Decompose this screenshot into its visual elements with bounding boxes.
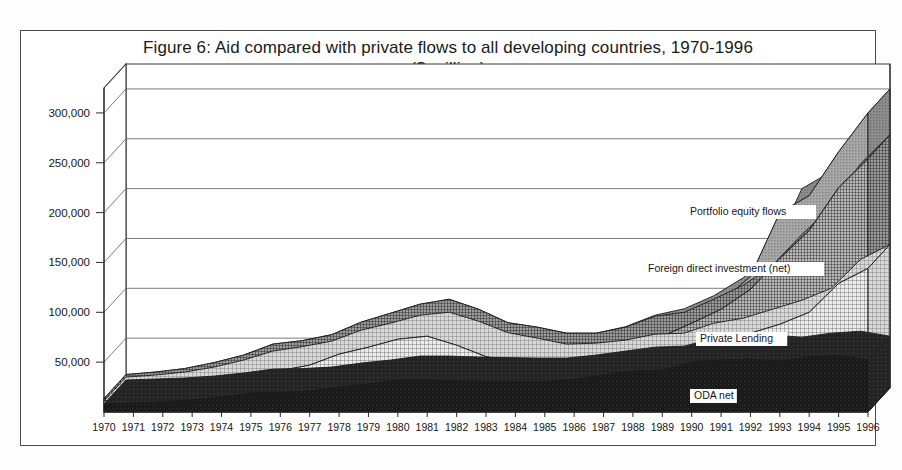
- x-axis-tick-label: 1986: [562, 421, 586, 433]
- x-axis-tick-label: 1982: [445, 421, 469, 433]
- x-axis-tick-label: 1974: [210, 421, 234, 433]
- plot-left-wall: [104, 64, 126, 412]
- x-axis-tick-label: 1987: [592, 421, 616, 433]
- x-axis-tick-label: 1970: [92, 421, 116, 433]
- series-annotation-label: Private Lending: [700, 332, 773, 344]
- x-axis-tick-label: 1981: [416, 421, 440, 433]
- series-annotation-label: ODA net: [694, 389, 734, 401]
- x-axis-tick-label: 1988: [621, 421, 645, 433]
- y-axis-tick-label: 250,000: [48, 157, 90, 169]
- y-axis-tick-label: 150,000: [48, 256, 90, 268]
- x-axis-tick-label: 1989: [651, 421, 675, 433]
- x-axis-tick-label: 1980: [386, 421, 410, 433]
- x-axis-tick-label: 1972: [151, 421, 175, 433]
- x-axis-tick-label: 1994: [798, 421, 822, 433]
- x-axis-tick-label: 1992: [739, 421, 763, 433]
- y-axis-tick-label: 50,000: [55, 356, 90, 368]
- x-axis-tick-label: 1996: [856, 421, 880, 433]
- series-annotation-label: Portfolio equity flows: [690, 205, 786, 217]
- x-axis-tick-label: 1978: [327, 421, 351, 433]
- x-axis-tick-label: 1976: [269, 421, 293, 433]
- y-axis-tick-label: 200,000: [48, 207, 90, 219]
- figure-page: Figure 6: Aid compared with private flow…: [0, 0, 902, 470]
- x-axis-tick-label: 1975: [239, 421, 263, 433]
- x-axis-tick-label: 1990: [680, 421, 704, 433]
- series-annotation-label: Foreign direct investment (net): [648, 262, 790, 274]
- x-axis-tick-label: 1991: [709, 421, 733, 433]
- x-axis: 1970197119721973197419751976197719781979…: [92, 412, 880, 433]
- x-axis-tick-label: 1979: [357, 421, 381, 433]
- x-axis-tick-label: 1983: [474, 421, 498, 433]
- x-axis-tick-label: 1993: [768, 421, 792, 433]
- x-axis-tick-label: 1971: [122, 421, 146, 433]
- x-axis-tick-label: 1995: [827, 421, 851, 433]
- x-axis-tick-label: 1977: [298, 421, 322, 433]
- x-axis-tick-label: 1984: [504, 421, 528, 433]
- y-axis-tick-label: 100,000: [48, 306, 90, 318]
- x-axis-tick-label: 1973: [180, 421, 204, 433]
- x-axis-tick-label: 1985: [533, 421, 557, 433]
- stacked-area-chart: 50,000100,000150,000200,000250,000300,00…: [0, 0, 902, 470]
- y-axis-tick-label: 300,000: [48, 107, 90, 119]
